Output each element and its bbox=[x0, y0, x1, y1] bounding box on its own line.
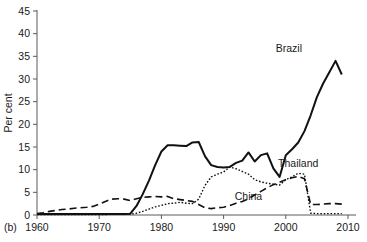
y-tick-label: 15 bbox=[18, 141, 30, 153]
y-axis-title: Per cent bbox=[2, 93, 14, 132]
x-tick-label: 1960 bbox=[25, 221, 49, 233]
x-tick-label: 1970 bbox=[88, 221, 112, 233]
y-tick-label: 35 bbox=[18, 50, 30, 62]
y-tick-label: 40 bbox=[18, 27, 30, 39]
series-line-china bbox=[37, 176, 342, 213]
series-label-thailand: Thailand bbox=[278, 157, 318, 169]
series-line-brazil bbox=[37, 61, 342, 214]
series-label-brazil: Brazil bbox=[276, 42, 302, 54]
chart-figure: 0510152025303540451960197019801990200020… bbox=[0, 0, 367, 242]
y-tick-label: 20 bbox=[18, 118, 30, 130]
panel-label: (b) bbox=[4, 221, 17, 233]
x-tick-label: 2000 bbox=[274, 221, 298, 233]
line-chart-plot: 0510152025303540451960197019801990200020… bbox=[0, 0, 367, 242]
y-tick-label: 30 bbox=[18, 73, 30, 85]
x-tick-label: 2010 bbox=[336, 221, 360, 233]
y-tick-label: 25 bbox=[18, 95, 30, 107]
x-tick-label: 1980 bbox=[150, 221, 174, 233]
y-tick-label: 10 bbox=[18, 163, 30, 175]
y-tick-label: 45 bbox=[18, 5, 30, 17]
y-tick-label: 5 bbox=[24, 186, 30, 198]
y-tick-label: 0 bbox=[24, 209, 30, 221]
x-tick-label: 1990 bbox=[212, 221, 236, 233]
series-label-china: China bbox=[235, 190, 263, 202]
